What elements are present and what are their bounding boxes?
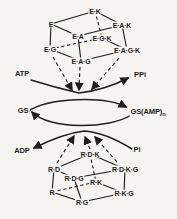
node-rdk: R·D·K [80, 151, 101, 158]
node-eg: E·G [43, 46, 57, 53]
deadenylylation-curve [34, 131, 132, 149]
node-rg: R·G [75, 199, 89, 206]
node-ea: E·A [71, 33, 84, 40]
node-eak: E·A·K [112, 22, 132, 29]
gs-adenylylation-cycle-diagram: E E·K E·A·K E·A E·G·K E·G E·A·G·K E·A·G … [0, 0, 177, 219]
gs-amp-label: GS(AMP)n [129, 108, 166, 116]
node-egk: E·G·K [92, 35, 113, 42]
node-rk: R·K [89, 179, 103, 186]
adp-label: ADP [13, 147, 31, 155]
cycle-arc-forward [27, 100, 126, 112]
node-eagk: E·A·G·K [113, 47, 141, 54]
node-r: R [49, 189, 56, 196]
gs-amp-main: GS(AMP) [130, 107, 162, 116]
node-rdg: R·D·G [63, 175, 84, 182]
gs-amp-subscript: n [162, 111, 165, 117]
node-eag: E·A·G [71, 58, 92, 65]
node-rd: R·D [47, 166, 61, 173]
gs-label: GS [17, 107, 30, 115]
node-rkg: R·K·G [113, 190, 134, 197]
pi-label: Pi [133, 146, 142, 154]
ppi-label: PPi [133, 71, 147, 79]
node-rdkg: R·D·K·G [111, 166, 139, 173]
atp-label: ATP [14, 70, 30, 78]
cycle-arc-reverse [32, 112, 131, 126]
node-ek: E·K [88, 8, 101, 15]
top-cube-edges [50, 11, 127, 61]
cascade-arrows-bottom [57, 136, 117, 163]
node-e: E [48, 21, 54, 28]
